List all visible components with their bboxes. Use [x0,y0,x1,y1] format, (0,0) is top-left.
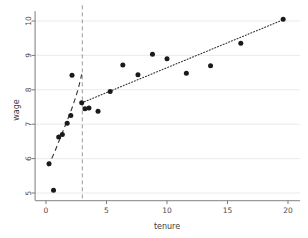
data-point [51,188,56,193]
y-axis-title: wage [12,99,21,121]
data-point [108,89,113,94]
data-point [60,132,65,137]
data-point [120,63,125,68]
y-tick-label-10: 10 [24,16,33,26]
x-tick-label-15: 15 [223,206,233,215]
data-point [68,113,73,118]
data-point [135,72,140,77]
x-tick-label-5: 5 [104,206,109,215]
chart-figure: 567891005101520 tenure wage [0,0,308,238]
data-point [86,106,91,111]
y-tick-label-9: 9 [24,53,33,58]
data-point [70,73,75,78]
data-point [47,161,52,166]
y-tick-label-6: 6 [24,156,33,161]
data-point [238,41,243,46]
data-point [150,52,155,57]
data-point [184,71,189,76]
x-axis-title: tenure [154,222,180,231]
data-point [165,56,170,61]
data-point [65,121,70,126]
y-tick-label-7: 7 [24,122,33,127]
data-point [281,17,286,22]
data-point [96,109,101,114]
x-tick-label-0: 0 [44,206,49,215]
x-tick-label-20: 20 [283,206,293,215]
y-tick-label-5: 5 [24,190,33,195]
data-point [208,63,213,68]
data-point [79,100,84,105]
y-tick-label-8: 8 [24,87,33,92]
x-tick-label-10: 10 [162,206,172,215]
scatter-plot-svg: 567891005101520 tenure wage [0,0,308,238]
